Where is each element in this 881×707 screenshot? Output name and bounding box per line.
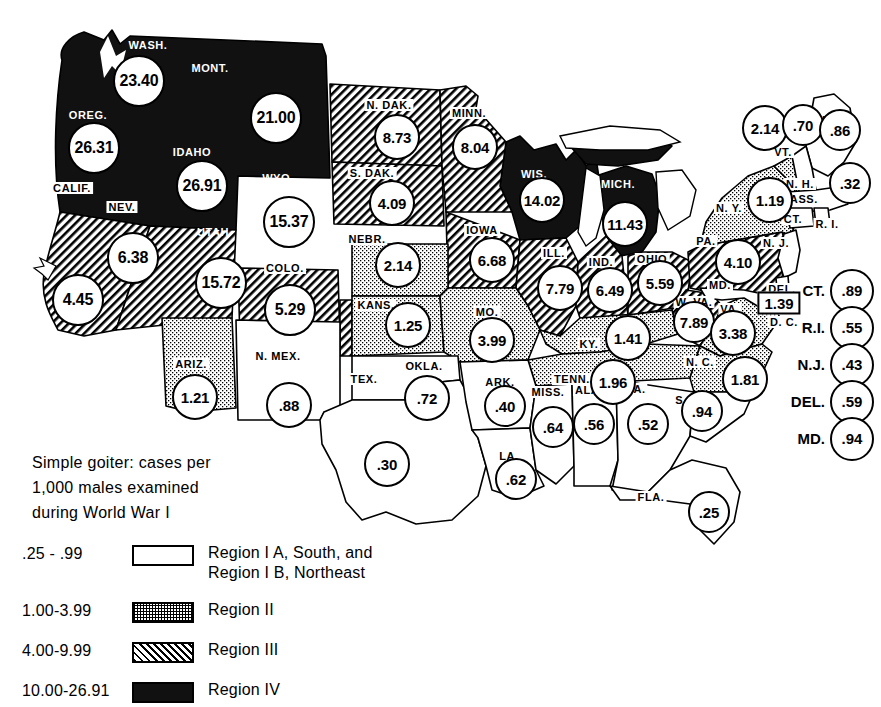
value-bubble-fla: .25 bbox=[688, 491, 730, 533]
state-label-nc: N. C. bbox=[684, 356, 716, 368]
state-label-tex: TEX. bbox=[349, 373, 380, 385]
legend-row: .25 - .99Region I A, South, andRegion I … bbox=[22, 543, 373, 583]
state-label-nmex: N. MEX. bbox=[253, 350, 302, 362]
map-caption: Simple goiter: cases per 1,000 males exa… bbox=[32, 450, 362, 525]
state-label-iowa: IOWA bbox=[464, 224, 500, 236]
value-bubble-sc: .94 bbox=[681, 390, 723, 432]
state-label-ndak: N. DAK. bbox=[364, 99, 413, 111]
state-label-calif: CALIF. bbox=[51, 182, 93, 194]
legend-label-line-1: Region III bbox=[208, 640, 278, 660]
state-label-ri: R. I. bbox=[813, 218, 840, 230]
legend-range: 10.00-26.91 bbox=[22, 680, 130, 700]
state-label-nev: NEV. bbox=[106, 201, 137, 213]
state-label-oreg: OREG. bbox=[69, 109, 107, 121]
side-list-row: DEL..59 bbox=[744, 383, 874, 420]
value-bubble-nebr: 2.14 bbox=[375, 242, 421, 288]
small-states-value-list: CT..89R.I..55N.J..43DEL..59MD..94 bbox=[744, 272, 874, 457]
value-bubble-la: .62 bbox=[495, 458, 537, 500]
value-bubble-mass: .32 bbox=[829, 162, 871, 204]
side-list-state-name: CT. bbox=[803, 282, 826, 299]
legend-swatch-outline-white bbox=[132, 545, 194, 566]
value-bubble-tex: .30 bbox=[364, 441, 410, 487]
side-list-row: N.J..43 bbox=[744, 346, 874, 383]
value-bubble-wis: 14.02 bbox=[519, 177, 565, 223]
legend-swatch-stipple bbox=[132, 602, 194, 623]
lake-huron-erie bbox=[656, 170, 696, 230]
value-bubble-nmex: .88 bbox=[266, 382, 312, 428]
legend-label: Region II bbox=[208, 600, 274, 620]
state-kansas-west-strip bbox=[340, 300, 352, 356]
state-label-ny: N. Y. bbox=[714, 202, 744, 214]
state-label-ariz: ARIZ. bbox=[173, 358, 209, 370]
legend-label-line-2: Region I B, Northeast bbox=[208, 563, 373, 583]
value-bubble-ark: .40 bbox=[484, 385, 526, 427]
state-label-fla: FLA. bbox=[636, 491, 667, 503]
legend-label-line-1: Region I A, South, and bbox=[208, 543, 373, 563]
lake-superior bbox=[560, 126, 680, 150]
caption-line-3: during World War I bbox=[32, 500, 362, 525]
legend-label: Region I A, South, andRegion I B, Northe… bbox=[208, 543, 373, 583]
map-legend: .25 - .99Region I A, South, andRegion I … bbox=[22, 543, 373, 707]
value-bubble-nh: .70 bbox=[782, 104, 824, 146]
value-bubble-ala: .56 bbox=[573, 403, 615, 445]
legend-swatch-solid bbox=[132, 682, 194, 703]
value-bubble-mont: 21.00 bbox=[250, 92, 302, 144]
legend-label-line-1: Region IV bbox=[208, 680, 280, 700]
side-list-row: MD..94 bbox=[744, 420, 874, 457]
state-label-mont: MONT. bbox=[191, 62, 228, 74]
state-label-nj: N. J. bbox=[761, 237, 791, 249]
legend-range: 4.00-9.99 bbox=[22, 640, 130, 660]
legend-row: 4.00-9.99Region III bbox=[22, 640, 373, 663]
state-label-wash: WASH. bbox=[128, 39, 167, 51]
value-bubble-utah: 15.72 bbox=[195, 257, 247, 309]
value-bubble-idaho: 26.91 bbox=[176, 160, 228, 212]
state-label-mich: MICH. bbox=[601, 178, 635, 190]
value-bubble-ill: 7.79 bbox=[537, 265, 583, 311]
state-label-ill: ILL. bbox=[541, 247, 567, 259]
value-bubble-tenn: 1.96 bbox=[590, 359, 636, 405]
state-label-tenn: TENN. bbox=[552, 373, 592, 385]
state-label-mo: MO. bbox=[474, 306, 501, 318]
state-label-minn: MINN. bbox=[450, 107, 488, 119]
value-bubble-vt: 2.14 bbox=[742, 105, 788, 151]
value-bubble-nev: 6.38 bbox=[107, 232, 159, 284]
side-list-state-name: MD. bbox=[798, 430, 826, 447]
value-bubble-ndak: 8.73 bbox=[374, 114, 420, 160]
caption-line-2: 1,000 males examined bbox=[32, 475, 362, 500]
state-label-utah: UTAH bbox=[197, 226, 229, 238]
value-bubble-calif: 4.45 bbox=[52, 274, 104, 326]
value-bubble-ga: .52 bbox=[627, 403, 669, 445]
state-label-ky: KY. bbox=[578, 338, 601, 350]
state-label-colo: COLO. bbox=[264, 262, 306, 274]
legend-label-line-1: Region II bbox=[208, 600, 274, 620]
side-list-state-name: R.I. bbox=[802, 319, 825, 336]
value-bubble-ny: 1.19 bbox=[747, 177, 793, 223]
state-label-sdak: S. DAK. bbox=[348, 167, 397, 179]
value-bubble-kans: 1.25 bbox=[385, 302, 431, 348]
legend-label: Region IV bbox=[208, 680, 280, 700]
value-bubble-ind: 6.49 bbox=[587, 267, 633, 313]
legend-row: 1.00-3.99Region II bbox=[22, 600, 373, 623]
legend-range: .25 - .99 bbox=[22, 543, 130, 563]
value-bubble-oreg: 26.31 bbox=[68, 122, 120, 174]
side-list-row: CT..89 bbox=[744, 272, 874, 309]
state-label-pa: PA. bbox=[694, 235, 717, 247]
state-label-wyo: WYO. bbox=[262, 172, 294, 184]
side-list-value: .94 bbox=[830, 417, 874, 461]
state-label-okla: OKLA. bbox=[403, 360, 444, 372]
state-label-miss: MISS. bbox=[530, 386, 567, 398]
value-bubble-iowa: 6.68 bbox=[469, 237, 515, 283]
side-list-state-name: DEL. bbox=[791, 393, 825, 410]
value-bubble-mich: 11.43 bbox=[602, 201, 648, 247]
state-label-nebr: NEBR. bbox=[346, 233, 387, 245]
value-bubble-wash: 23.40 bbox=[113, 55, 165, 107]
side-list-state-name: N.J. bbox=[797, 356, 825, 373]
value-bubble-okla: .72 bbox=[404, 375, 450, 421]
value-bubble-colo: 5.29 bbox=[264, 284, 316, 336]
legend-range: 1.00-3.99 bbox=[22, 600, 130, 620]
value-bubble-ky: 1.41 bbox=[605, 315, 651, 361]
value-bubble-wva: 7.89 bbox=[673, 301, 715, 343]
state-label-idaho: IDAHO bbox=[173, 146, 211, 158]
legend-row: 10.00-26.91Region IV bbox=[22, 680, 373, 703]
